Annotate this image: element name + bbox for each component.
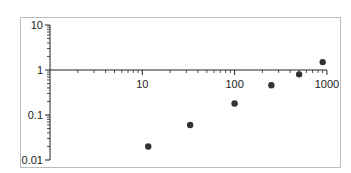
x-tick-label: 10: [136, 78, 148, 90]
data-point: [145, 143, 151, 149]
y-tick-label: 10: [31, 19, 43, 31]
y-tick-label: 1: [37, 64, 43, 76]
x-tick-label: 100: [225, 78, 243, 90]
data-point: [296, 71, 302, 77]
y-tick-label: 0.1: [28, 109, 43, 121]
data-point: [268, 82, 274, 88]
scatter-chart: 1010.10.01101001000: [0, 0, 351, 173]
y-tick-label: 0.01: [22, 154, 43, 166]
data-point: [231, 100, 237, 106]
data-point: [187, 122, 193, 128]
x-tick-label: 1000: [315, 78, 339, 90]
plot-frame: [21, 18, 341, 168]
data-point: [319, 59, 325, 65]
